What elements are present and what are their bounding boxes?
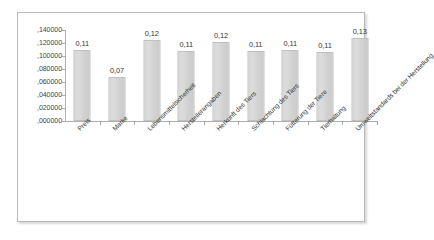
x-axis-tick-mark	[342, 122, 343, 125]
chart-frame: ,000000,020000,040000,060000,080000,1000…	[17, 12, 365, 222]
x-axis-label: Tierhaltung	[319, 104, 347, 132]
x-axis-tick-mark	[273, 122, 274, 125]
x-axis-tick-mark	[100, 122, 101, 125]
x-axis-label: Umweltstandards bei der Herstellung	[354, 52, 434, 132]
x-axis-tick-mark	[169, 122, 170, 125]
x-axis-tick-mark	[204, 122, 205, 125]
x-axis-category-labels: PreisMarkeLebensmittelsicherheitHerstell…	[18, 13, 395, 240]
x-axis-tick-mark	[134, 122, 135, 125]
x-axis-tick-mark	[308, 122, 309, 125]
x-axis-tick-mark	[238, 122, 239, 125]
x-axis-label: Marke	[111, 114, 129, 132]
x-axis-tick-mark	[377, 122, 378, 125]
x-axis-label: Preis	[76, 117, 91, 132]
